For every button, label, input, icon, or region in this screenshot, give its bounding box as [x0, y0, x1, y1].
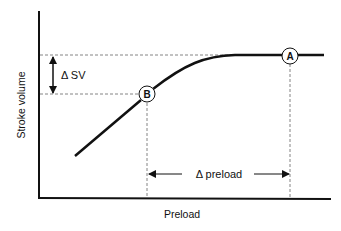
point-b-label: B: [143, 89, 150, 100]
delta-sv-label: Δ SV: [61, 69, 86, 81]
x-axis: [38, 198, 331, 199]
x-axis-label: Preload: [164, 208, 200, 220]
point-a-label: A: [286, 51, 293, 62]
y-axis-label: Stroke volume: [15, 71, 27, 138]
delta-sv-annotation: Δ SV: [53, 57, 86, 93]
stroke-volume-curve: [75, 55, 324, 156]
frank-starling-diagram: B A Δ SV Δ preload Preload Stroke volume: [0, 0, 341, 231]
delta-preload-label: Δ preload: [196, 168, 243, 180]
delta-preload-annotation: Δ preload: [149, 168, 289, 180]
point-b: B: [139, 86, 155, 102]
point-a: A: [282, 48, 298, 64]
